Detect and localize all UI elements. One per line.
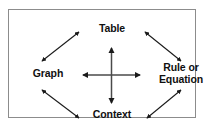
diagram-frame: Table Graph Rule or Equation Context [8, 9, 196, 118]
node-label-graph: Graph [22, 68, 74, 80]
arrow-graph-context [42, 90, 79, 118]
arrow-table-rule [145, 32, 181, 61]
node-label-table: Table [81, 23, 143, 35]
node-label-rule-or-equation: Rule or Equation [152, 62, 205, 85]
diagram-screenshot: Table Graph Rule or Equation Context [0, 0, 205, 130]
arrow-graph-table [42, 32, 79, 61]
node-label-context: Context [79, 109, 145, 121]
arrow-context-rule [147, 90, 181, 118]
